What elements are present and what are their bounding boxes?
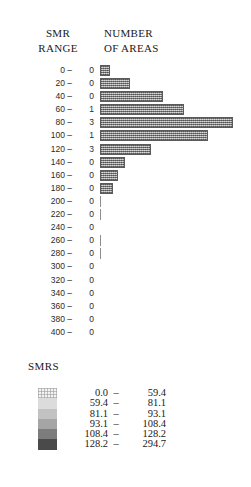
row-count-label: 0	[76, 287, 94, 300]
row-range-label: 240 –	[18, 221, 72, 234]
row-count-label: 0	[76, 326, 94, 339]
row-bar-container	[100, 157, 125, 168]
row-count-label: 0	[76, 300, 94, 313]
row-count-label: 1	[76, 129, 94, 142]
chart-header: SMR RANGE NUMBER OF AREAS	[0, 26, 251, 62]
row-range-label: 80 –	[18, 116, 72, 129]
row-count-label: 0	[76, 90, 94, 103]
row-bar	[100, 104, 184, 115]
histogram-row: 120 –3	[0, 143, 251, 156]
histogram-row: 340 –0	[0, 287, 251, 300]
number-of-areas-header-line1: NUMBER	[104, 26, 214, 41]
legend-range-dash: –	[108, 439, 124, 449]
legend-swatch	[38, 409, 57, 419]
row-count-label: 0	[76, 77, 94, 90]
histogram-row: 280 –0	[0, 247, 251, 260]
row-bar-container	[100, 117, 233, 128]
row-count-label: 0	[76, 208, 94, 221]
row-range-label: 120 –	[18, 143, 72, 156]
legend-entry: 128.2–294.7	[0, 439, 251, 449]
row-bar-container	[100, 183, 113, 194]
row-count-label: 3	[76, 143, 94, 156]
histogram-row: 380 –0	[0, 313, 251, 326]
row-bar-container	[100, 144, 151, 155]
row-bar-container	[100, 130, 208, 141]
row-bar-container	[100, 78, 130, 89]
histogram-row: 80 –3	[0, 116, 251, 129]
row-bar-container	[100, 248, 101, 259]
histogram-row: 300 –0	[0, 260, 251, 273]
row-count-label: 0	[76, 234, 94, 247]
legend-entry: 108.4–128.2	[0, 429, 251, 439]
row-bar	[100, 65, 110, 76]
histogram-row: 40 –0	[0, 90, 251, 103]
row-bar-container	[100, 170, 118, 181]
row-bar-container	[100, 209, 101, 220]
row-count-label: 3	[76, 116, 94, 129]
row-count-label: 0	[76, 64, 94, 77]
row-bar-container	[100, 196, 101, 207]
legend-entry: 59.4–81.1	[0, 398, 251, 408]
row-bar	[100, 144, 151, 155]
legend-entry: 81.1–93.1	[0, 409, 251, 419]
row-range-label: 400 –	[18, 326, 72, 339]
legend-range-label: 81.1–93.1	[66, 409, 194, 419]
row-bar-container	[100, 235, 101, 246]
row-range-label: 340 –	[18, 287, 72, 300]
row-bar	[100, 209, 101, 220]
row-count-label: 0	[76, 195, 94, 208]
histogram-row: 400 –0	[0, 326, 251, 339]
histogram-row: 220 –0	[0, 208, 251, 221]
row-count-label: 0	[76, 169, 94, 182]
row-bar	[100, 196, 101, 207]
row-bar	[100, 183, 113, 194]
smr-range-header: SMR RANGE	[22, 26, 94, 56]
row-bar	[100, 235, 101, 246]
row-count-label: 0	[76, 156, 94, 169]
row-range-label: 180 –	[18, 182, 72, 195]
legend-entries: 0.0–59.459.4–81.181.1–93.193.1–108.4108.…	[0, 388, 251, 450]
row-count-label: 0	[76, 274, 94, 287]
row-bar	[100, 248, 101, 259]
row-range-label: 280 –	[18, 247, 72, 260]
row-bar-container	[100, 104, 184, 115]
row-count-label: 0	[76, 260, 94, 273]
legend-swatch	[38, 439, 57, 449]
legend-range-label: 0.0–59.4	[66, 388, 194, 398]
legend-swatch	[38, 398, 57, 408]
row-count-label: 0	[76, 313, 94, 326]
histogram-row: 320 –0	[0, 274, 251, 287]
legend-swatch	[38, 429, 57, 439]
histogram-row: 20 –0	[0, 77, 251, 90]
smr-range-header-line1: SMR	[22, 26, 94, 41]
row-range-label: 320 –	[18, 274, 72, 287]
row-range-label: 0 –	[18, 64, 72, 77]
legend-swatch	[38, 419, 57, 429]
histogram-row: 240 –0	[0, 221, 251, 234]
row-range-label: 300 –	[18, 260, 72, 273]
row-range-label: 40 –	[18, 90, 72, 103]
legend-range-label: 59.4–81.1	[66, 398, 194, 408]
legend-range-high: 294.7	[124, 439, 166, 449]
row-count-label: 0	[76, 247, 94, 260]
row-range-label: 360 –	[18, 300, 72, 313]
number-of-areas-header-line2: OF AREAS	[104, 41, 214, 56]
row-range-label: 380 –	[18, 313, 72, 326]
row-range-label: 160 –	[18, 169, 72, 182]
histogram-row: 260 –0	[0, 234, 251, 247]
row-range-label: 260 –	[18, 234, 72, 247]
row-range-label: 100 –	[18, 129, 72, 142]
histogram-row: 360 –0	[0, 300, 251, 313]
row-bar	[100, 91, 163, 102]
row-count-label: 0	[76, 182, 94, 195]
row-range-label: 140 –	[18, 156, 72, 169]
smr-range-header-line2: RANGE	[22, 41, 94, 56]
legend-entry: 93.1–108.4	[0, 419, 251, 429]
histogram-row: 180 –0	[0, 182, 251, 195]
row-bar-container	[100, 91, 163, 102]
row-range-label: 200 –	[18, 195, 72, 208]
row-range-label: 20 –	[18, 77, 72, 90]
row-count-label: 1	[76, 103, 94, 116]
number-of-areas-header: NUMBER OF AREAS	[104, 26, 214, 56]
row-count-label: 0	[76, 221, 94, 234]
